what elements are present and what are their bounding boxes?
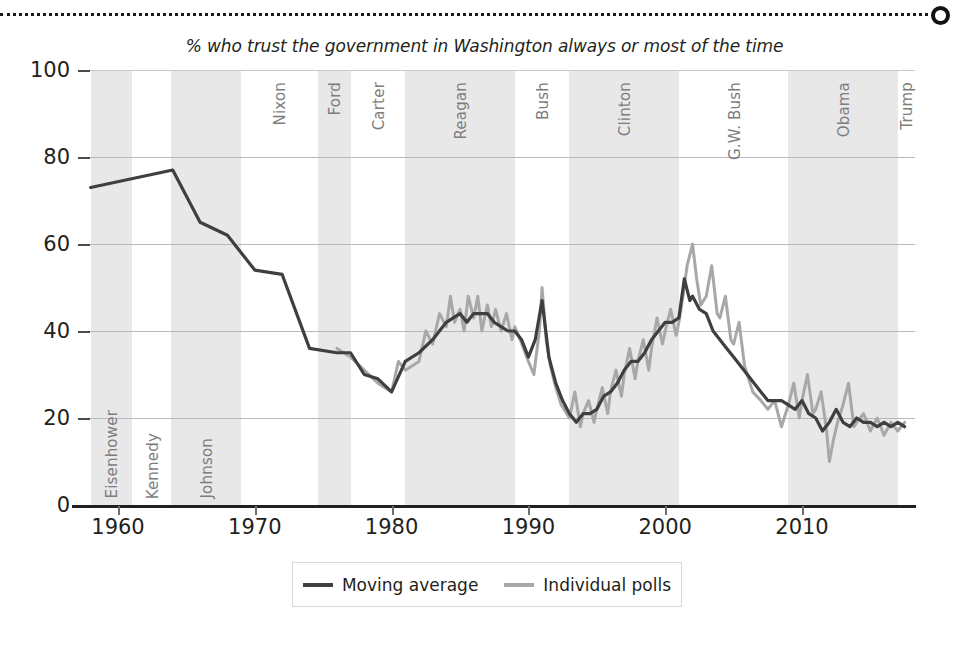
- y-tick-dash-20: [78, 418, 90, 420]
- y-tick-dash-80: [78, 157, 90, 159]
- line-swatch-dark: [303, 583, 333, 587]
- y-tick-label-0: 0: [57, 493, 70, 517]
- x-tick-1990: [528, 506, 530, 515]
- trust-in-government-chart: % who trust the government in Washington…: [0, 0, 969, 647]
- president-label-g-w-bush: G.W. Bush: [726, 82, 744, 160]
- x-tick-label-1990: 1990: [502, 515, 555, 539]
- x-tick-label-2000: 2000: [638, 515, 691, 539]
- y-tick-label-20: 20: [43, 406, 70, 430]
- y-axis-baseline-tick: [72, 505, 90, 508]
- chart-legend: Moving averageIndividual polls: [292, 562, 682, 607]
- series-line-individual-polls: [337, 244, 905, 462]
- x-tick-label-2010: 2010: [775, 515, 828, 539]
- president-label-johnson: Johnson: [198, 438, 216, 499]
- x-tick-2000: [665, 506, 667, 515]
- president-label-bush: Bush: [534, 82, 552, 120]
- y-tick-label-60: 60: [43, 232, 70, 256]
- president-label-reagan: Reagan: [452, 82, 470, 140]
- y-tick-label-100: 100: [30, 58, 70, 82]
- x-axis-line: [90, 505, 916, 508]
- president-label-eisenhower: Eisenhower: [103, 410, 121, 499]
- x-tick-1980: [392, 506, 394, 515]
- y-tick-dash-60: [78, 244, 90, 246]
- president-label-nixon: Nixon: [271, 82, 289, 126]
- president-label-carter: Carter: [370, 82, 388, 130]
- legend-entry-moving-average[interactable]: Moving average: [303, 575, 478, 595]
- y-tick-label-80: 80: [43, 145, 70, 169]
- series-line-moving-average: [91, 170, 905, 431]
- x-tick-label-1960: 1960: [91, 515, 144, 539]
- plot-area: EisenhowerKennedyJohnsonNixonFordCarterR…: [90, 70, 915, 505]
- chart-title: % who trust the government in Washington…: [0, 36, 969, 56]
- line-swatch-light: [504, 583, 534, 587]
- president-label-kennedy: Kennedy: [144, 433, 162, 499]
- x-tick-1960: [118, 506, 120, 515]
- y-tick-dash-100: [78, 70, 90, 72]
- legend-label: Moving average: [342, 575, 478, 595]
- legend-entry-individual-polls[interactable]: Individual polls: [504, 575, 671, 595]
- y-tick-dash-40: [78, 331, 90, 333]
- x-tick-1970: [255, 506, 257, 515]
- legend-label: Individual polls: [543, 575, 671, 595]
- x-tick-label-1970: 1970: [228, 515, 281, 539]
- y-tick-label-40: 40: [43, 319, 70, 343]
- president-label-trump: Trump: [898, 82, 916, 130]
- x-tick-2010: [802, 506, 804, 515]
- president-label-clinton: Clinton: [616, 82, 634, 136]
- president-label-obama: Obama: [835, 82, 853, 137]
- president-label-ford: Ford: [326, 82, 344, 116]
- x-tick-label-1980: 1980: [365, 515, 418, 539]
